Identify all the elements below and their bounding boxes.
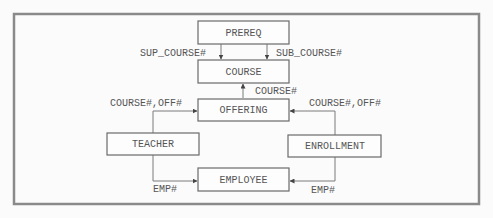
entity-enrollment[interactable]: ENROLLMENT — [288, 135, 381, 157]
entity-prereq-label: PREREQ — [225, 28, 261, 39]
connector-enrollment-employee — [290, 157, 335, 181]
entity-course[interactable]: COURSE — [198, 60, 289, 83]
entity-offering-label: OFFERING — [219, 105, 267, 116]
label-sub-course: SUB_COURSE# — [276, 48, 342, 59]
diagram-canvas: PREREQ COURSE OFFERING TEACHER ENROLLMEN… — [0, 0, 493, 218]
entity-enrollment-label: ENROLLMENT — [305, 141, 365, 152]
label-enrollment-employee: EMP# — [311, 185, 335, 196]
entity-course-label: COURSE — [225, 67, 261, 78]
entity-employee-label: EMPLOYEE — [219, 175, 267, 186]
entity-employee[interactable]: EMPLOYEE — [198, 168, 289, 191]
entity-prereq[interactable]: PREREQ — [198, 21, 289, 44]
entity-teacher[interactable]: TEACHER — [107, 133, 199, 155]
connector-teacher-offering — [153, 111, 197, 133]
label-teacher-employee: EMP# — [153, 184, 177, 195]
label-enrollment-offering: COURSE#,OFF# — [309, 98, 381, 109]
label-teacher-offering: COURSE#,OFF# — [110, 98, 182, 109]
label-sup-course: SUP_COURSE# — [140, 48, 206, 59]
label-offering-course: COURSE# — [255, 86, 297, 97]
entity-teacher-label: TEACHER — [132, 139, 174, 150]
connector-enrollment-offering — [290, 111, 335, 135]
entity-offering[interactable]: OFFERING — [198, 99, 289, 121]
connector-teacher-employee — [153, 155, 197, 181]
